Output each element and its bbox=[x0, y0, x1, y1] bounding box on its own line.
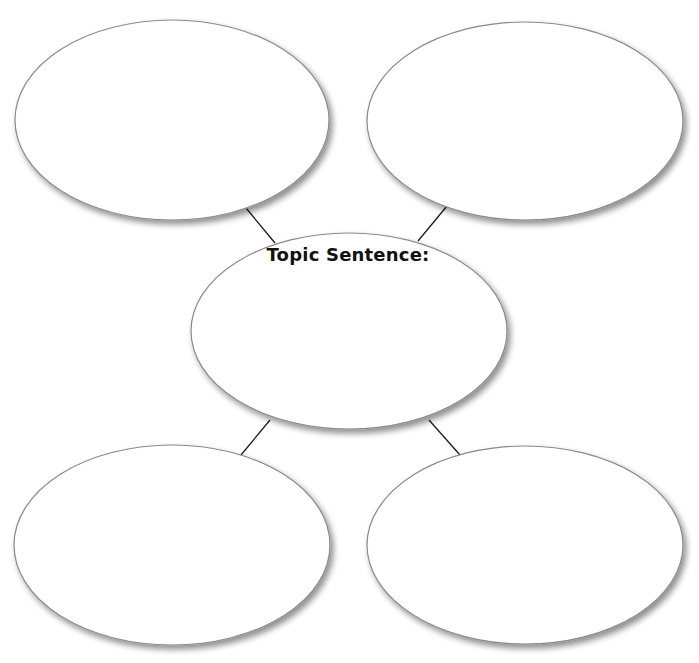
oval-bottom-left[interactable] bbox=[14, 445, 330, 645]
oval-top-right[interactable] bbox=[367, 22, 683, 220]
connector-bottom-right bbox=[429, 420, 460, 455]
oval-top-left[interactable] bbox=[15, 20, 329, 220]
connector-top-left bbox=[246, 208, 275, 243]
topic-sentence-label: Topic Sentence: bbox=[190, 244, 506, 265]
oval-bottom-right[interactable] bbox=[367, 446, 683, 644]
organizer-canvas bbox=[0, 0, 699, 663]
connector-bottom-left bbox=[241, 420, 270, 455]
connector-top-right bbox=[418, 206, 447, 241]
